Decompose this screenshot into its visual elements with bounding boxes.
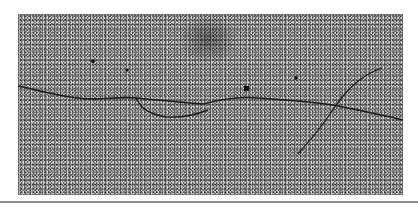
dark-particle xyxy=(294,76,298,80)
micrograph xyxy=(18,14,403,195)
crossing-filament xyxy=(298,68,382,154)
dark-particle xyxy=(244,86,249,91)
divider-line xyxy=(0,201,418,203)
filament-strands xyxy=(18,14,403,195)
dark-particle xyxy=(91,59,95,63)
main-filament xyxy=(18,86,403,120)
dark-particle xyxy=(126,69,129,72)
